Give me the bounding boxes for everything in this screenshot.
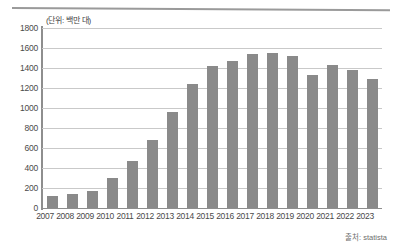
y-tick-label: 800	[4, 124, 38, 133]
chart-figure: (단위: 백만 대) 18001600140012001000800600400…	[0, 0, 395, 247]
bar	[167, 112, 178, 208]
bar	[327, 65, 338, 208]
plot-area	[42, 28, 382, 208]
y-tick-label: 1600	[4, 44, 38, 53]
bar-series	[42, 28, 382, 208]
y-tick-label: 400	[4, 164, 38, 173]
x-axis-tick-labels: 2007200820092010201120122013201420152016…	[42, 211, 382, 225]
source-attribution: 출처: statista	[345, 233, 387, 242]
gridline	[42, 208, 382, 209]
bar	[107, 178, 118, 208]
y-tick-label: 200	[4, 184, 38, 193]
y-tick-label: 1200	[4, 84, 38, 93]
y-axis-unit-label: (단위: 백만 대)	[46, 16, 91, 25]
bar	[47, 196, 58, 208]
y-tick-label: 1400	[4, 64, 38, 73]
bar	[287, 56, 298, 208]
bar	[247, 54, 258, 208]
y-axis-tick-labels: 180016001400120010008006004002000	[0, 28, 38, 208]
bar	[267, 53, 278, 209]
bar	[367, 79, 378, 208]
bar	[127, 161, 138, 208]
y-tick-label: 600	[4, 144, 38, 153]
bar	[147, 140, 158, 208]
top-divider-rule	[12, 7, 390, 11]
bar	[187, 84, 198, 209]
y-tick-label: 1800	[4, 24, 38, 33]
y-tick-label: 1000	[4, 104, 38, 113]
bar	[227, 61, 238, 208]
bar	[307, 75, 318, 208]
bar	[347, 70, 358, 208]
bar	[67, 194, 78, 208]
bar	[87, 191, 98, 208]
bar	[207, 66, 218, 208]
x-tick-label: 2023	[352, 211, 378, 221]
